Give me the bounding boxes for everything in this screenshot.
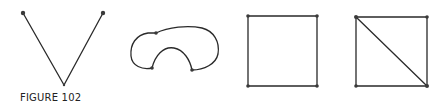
- vertex: [63, 84, 65, 86]
- vertex: [190, 68, 194, 72]
- graph-square: [246, 14, 319, 88]
- vertex: [354, 84, 358, 88]
- diagonal-edge: [356, 17, 427, 86]
- vertex: [425, 84, 429, 88]
- graph-square-with-diagonal: [354, 15, 429, 88]
- vertex: [425, 15, 429, 19]
- vertex: [246, 84, 250, 88]
- vertex: [315, 14, 319, 18]
- vertex: [315, 84, 319, 88]
- graph-v-shape: [21, 11, 105, 86]
- figure-caption: FIGURE 102: [20, 92, 81, 103]
- vertex: [354, 15, 358, 19]
- vertex: [101, 11, 105, 15]
- vertex: [21, 11, 25, 15]
- vertex: [150, 66, 154, 70]
- v-edges: [23, 13, 103, 85]
- square-edges: [248, 16, 317, 86]
- closed-curve-edge: [131, 27, 218, 70]
- vertex: [246, 14, 250, 18]
- vertex: [154, 31, 158, 35]
- graph-closed-curve: [131, 27, 218, 72]
